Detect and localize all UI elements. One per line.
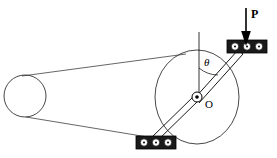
center-label-O: O bbox=[205, 99, 213, 110]
pivot-hub bbox=[192, 92, 202, 102]
roller-center-dot bbox=[246, 46, 248, 48]
roller-center-dot bbox=[143, 142, 145, 144]
roller-center-dot bbox=[234, 46, 236, 48]
angle-label-theta: θ bbox=[204, 57, 209, 68]
angle-arc bbox=[199, 68, 218, 75]
roller-center-dot bbox=[167, 142, 169, 144]
diagram-canvas bbox=[0, 0, 277, 158]
small-pulley bbox=[4, 75, 46, 117]
mechanism-diagram: P θ O bbox=[0, 0, 277, 158]
roller-center-dot bbox=[258, 46, 260, 48]
lower-bearing-block bbox=[136, 136, 176, 149]
roller-center-dot bbox=[155, 142, 157, 144]
pivot-center-dot bbox=[195, 95, 199, 99]
lower-connecting-rod bbox=[151, 96, 199, 142]
force-label-P: P bbox=[251, 8, 258, 20]
